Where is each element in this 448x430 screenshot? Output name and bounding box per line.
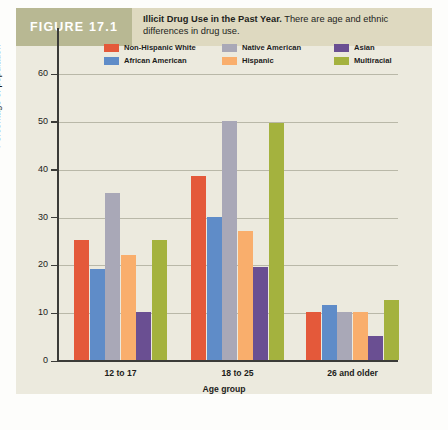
bar[interactable] [121, 255, 136, 360]
bar-group-12-to-17 [74, 0, 167, 361]
bar[interactable] [191, 176, 206, 360]
bar[interactable] [207, 217, 222, 361]
y-tick-label-10: 10 [0, 307, 48, 317]
chart-bars-layer [58, 0, 398, 361]
y-tick-label-30: 30 [0, 212, 48, 222]
bar[interactable] [238, 231, 253, 360]
bar[interactable] [222, 121, 237, 360]
bar[interactable] [384, 300, 399, 360]
y-tick-label-20: 20 [0, 259, 48, 269]
bar[interactable] [74, 240, 89, 360]
bar[interactable] [322, 305, 337, 360]
x-axis-group-label: 26 and older [288, 368, 417, 378]
bar-group-18-to-25 [191, 0, 284, 361]
bar[interactable] [353, 312, 368, 360]
bar[interactable] [269, 123, 284, 360]
bar[interactable] [306, 312, 321, 360]
bar[interactable] [152, 240, 167, 360]
y-axis-title: Percentage of population [0, 45, 2, 148]
x-axis-group-label: 18 to 25 [173, 368, 302, 378]
figure-container: FIGURE 17.1 Illicit Drug Use in the Past… [0, 0, 448, 430]
bar[interactable] [105, 193, 120, 360]
bar[interactable] [136, 312, 151, 360]
bar-group-26-and-older [306, 0, 399, 361]
bar[interactable] [368, 336, 383, 360]
bar[interactable] [337, 312, 352, 360]
y-tick-label-40: 40 [0, 164, 48, 174]
x-axis-group-label: 12 to 17 [56, 368, 185, 378]
y-tick-label-50: 50 [0, 116, 48, 126]
y-tick-label-0: 0 [0, 355, 48, 365]
x-axis-title: Age group [0, 384, 448, 394]
y-tick-label-60: 60 [0, 68, 48, 78]
bar[interactable] [253, 267, 268, 360]
bar[interactable] [90, 269, 105, 360]
